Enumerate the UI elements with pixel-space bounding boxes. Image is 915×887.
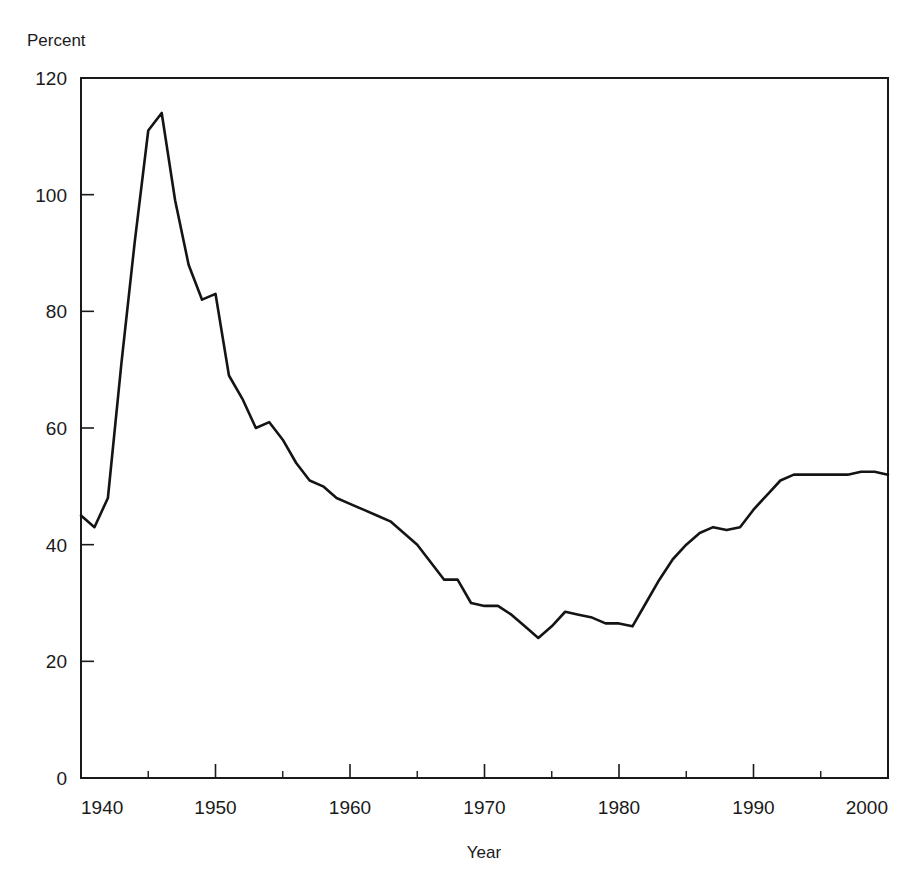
- x-tick-label: 1950: [194, 797, 236, 818]
- x-tick-label: 2000: [846, 797, 888, 818]
- chart-figure: Percent 020406080100120 1940195019601970…: [0, 0, 915, 887]
- x-tick-label: 1980: [598, 797, 640, 818]
- y-tick-label: 40: [46, 535, 67, 556]
- data-series-line: [81, 113, 888, 638]
- y-tick-label: 80: [46, 301, 67, 322]
- plot-frame: [81, 78, 888, 778]
- y-tick-label: 100: [35, 185, 67, 206]
- y-tick-label: 60: [46, 418, 67, 439]
- y-axis-title: Percent: [27, 31, 86, 50]
- x-axis-ticks: 1940195019601970198019902000: [81, 764, 888, 818]
- x-tick-label: 1990: [732, 797, 774, 818]
- line-chart: Percent 020406080100120 1940195019601970…: [0, 0, 915, 887]
- x-axis-title: Year: [467, 843, 502, 862]
- y-tick-label: 0: [56, 768, 67, 789]
- x-tick-label: 1960: [329, 797, 371, 818]
- x-tick-label: 1970: [463, 797, 505, 818]
- x-tick-label: 1940: [81, 797, 123, 818]
- y-tick-label: 20: [46, 651, 67, 672]
- y-axis-ticks: 020406080100120: [35, 68, 94, 789]
- y-tick-label: 120: [35, 68, 67, 89]
